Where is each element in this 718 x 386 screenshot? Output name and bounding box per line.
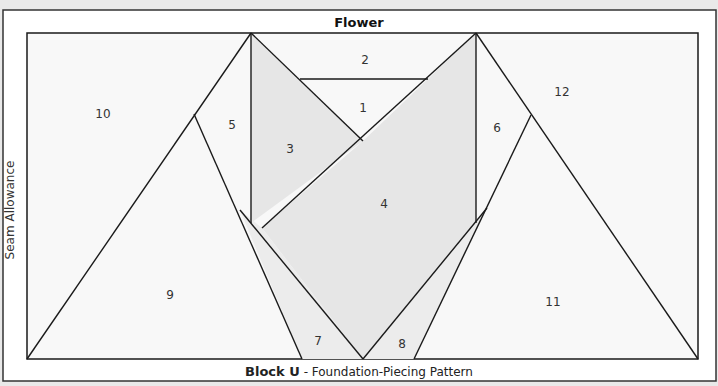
piece-number-8: 8 [398, 338, 406, 350]
pattern-caption: Block U - Foundation-Piecing Pattern [0, 365, 718, 378]
piece-number-6: 6 [493, 122, 501, 134]
pattern-diagram [0, 0, 718, 386]
piece-number-4: 4 [380, 198, 388, 210]
piece-number-12: 12 [554, 86, 569, 98]
piece-number-5: 5 [228, 119, 236, 131]
piece-number-11: 11 [545, 296, 560, 308]
piece-number-9: 9 [166, 289, 174, 301]
seam-allowance-label: Seam Allowance [3, 161, 17, 260]
piece-number-3: 3 [286, 143, 294, 155]
caption-subtitle: - Foundation-Piecing Pattern [300, 365, 473, 379]
piece-number-2: 2 [361, 54, 369, 66]
block-name: Block U [245, 364, 300, 379]
piece-number-10: 10 [95, 108, 110, 120]
piece-number-7: 7 [314, 335, 322, 347]
piece-number-1: 1 [359, 102, 367, 114]
pattern-title: Flower [0, 16, 718, 29]
